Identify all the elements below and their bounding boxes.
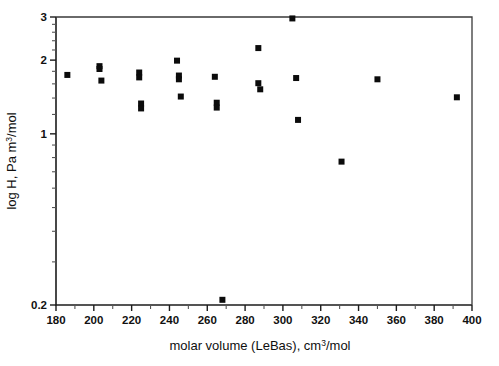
y-axis-title: log H, Pa m3/mol — [4, 112, 20, 209]
x-tick-label: 240 — [160, 314, 179, 326]
data-point-marker — [138, 105, 144, 111]
x-tick-label: 180 — [46, 314, 65, 326]
data-point-marker — [174, 58, 180, 64]
axis-top-right — [56, 17, 472, 305]
data-point-marker — [64, 72, 70, 78]
x-axis-tick-labels: 180200220240260280300320340360380400 — [46, 314, 481, 326]
data-point-marker — [339, 159, 345, 165]
scatter-chart-figure: 0.2123 180200220240260280300320340360380… — [0, 0, 499, 366]
plot-frame — [56, 17, 472, 305]
y-tick-label: 1 — [41, 128, 48, 140]
y-tick-label: 2 — [41, 54, 47, 66]
data-point-marker — [219, 297, 225, 303]
data-point-marker — [212, 74, 218, 80]
y-tick-label: 3 — [41, 11, 47, 23]
data-point-marker — [255, 45, 261, 51]
y-axis-ticks — [50, 17, 56, 305]
data-point-marker — [214, 105, 220, 111]
x-tick-label: 280 — [235, 314, 254, 326]
x-axis-title-text: molar volume (LeBas), cm3/mol — [169, 338, 350, 354]
y-axis-title-text: log H, Pa m3/mol — [4, 112, 20, 209]
data-point-marker — [178, 94, 184, 100]
x-tick-label: 320 — [311, 314, 330, 326]
data-point-marker — [454, 94, 460, 100]
data-point-markers — [64, 15, 460, 302]
plot-canvas: 0.2123 180200220240260280300320340360380… — [0, 0, 499, 366]
x-tick-label: 340 — [349, 314, 368, 326]
data-point-marker — [136, 74, 142, 80]
x-tick-label: 400 — [462, 314, 481, 326]
data-point-marker — [255, 80, 261, 86]
data-point-marker — [96, 66, 102, 72]
x-tick-label: 360 — [387, 314, 406, 326]
x-tick-label: 220 — [122, 314, 141, 326]
data-point-marker — [98, 78, 104, 84]
x-tick-label: 380 — [425, 314, 444, 326]
y-tick-label: 0.2 — [31, 299, 47, 311]
x-axis-ticks — [56, 305, 472, 311]
data-point-marker — [176, 76, 182, 82]
data-point-marker — [374, 76, 380, 82]
data-point-marker — [295, 117, 301, 123]
data-point-marker — [293, 75, 299, 81]
x-tick-label: 200 — [84, 314, 103, 326]
data-point-marker — [257, 86, 263, 92]
x-axis-title: molar volume (LeBas), cm3/mol — [169, 338, 350, 354]
x-tick-label: 260 — [198, 314, 217, 326]
data-point-marker — [289, 15, 295, 21]
x-tick-label: 300 — [273, 314, 292, 326]
axis-left-bottom — [56, 17, 472, 305]
y-axis-tick-labels: 0.2123 — [31, 11, 48, 311]
